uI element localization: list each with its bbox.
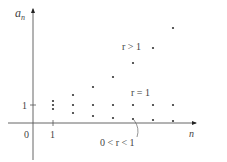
- series-r-eq-1-point: [72, 104, 74, 106]
- series-r-lt-1-point: [172, 120, 174, 122]
- series-r-gt-1-point: [52, 100, 54, 102]
- series-r-gt-1-point: [112, 76, 114, 78]
- series-r-eq-1-point: [92, 104, 94, 106]
- series-r-gt-1-point: [72, 94, 74, 96]
- series-r-lt-1-point: [72, 112, 74, 114]
- y-axis-label: an: [15, 6, 25, 22]
- series-r-gt-1-point: [92, 86, 94, 88]
- data-points: [52, 27, 174, 122]
- series-r-eq-1-point: [132, 104, 134, 106]
- series-r-gt-1-point: [152, 47, 154, 49]
- annotation-r-gt-1: r > 1: [122, 41, 141, 52]
- annotation-r-eq-1: r = 1: [131, 87, 150, 98]
- x-axis-label: n: [189, 128, 194, 139]
- series-r-eq-1-point: [52, 104, 54, 106]
- series-r-lt-1-point: [112, 117, 114, 119]
- x-tick-label-1: 1: [50, 129, 55, 140]
- series-r-gt-1-point: [172, 27, 174, 29]
- y-tick-label-1: 1: [22, 100, 27, 111]
- series-r-eq-1-point: [172, 104, 174, 106]
- sequence-plot: an n 0 1 1 r > 1 r = 1 0 < r < 1: [0, 0, 227, 162]
- series-r-eq-1-point: [152, 104, 154, 106]
- annotation-r-between: 0 < r < 1: [100, 137, 135, 148]
- series-r-gt-1-point: [132, 62, 134, 64]
- series-r-lt-1-point: [132, 118, 134, 120]
- series-r-eq-1-point: [112, 104, 114, 106]
- series-r-lt-1-point: [52, 108, 54, 110]
- origin-label: 0: [24, 129, 29, 140]
- series-r-lt-1-point: [92, 115, 94, 117]
- series-r-lt-1-point: [152, 119, 154, 121]
